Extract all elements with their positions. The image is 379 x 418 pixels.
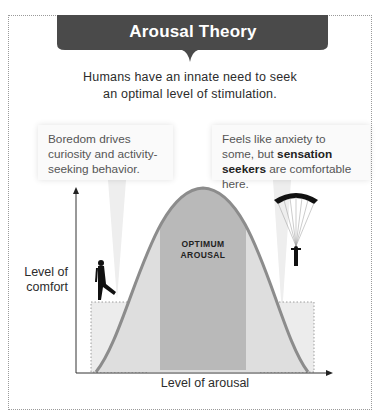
- y-label-line-1: Level of: [20, 265, 68, 280]
- walking-person-icon: [95, 260, 116, 300]
- arousal-chart: [0, 0, 379, 418]
- callout-sensation-seekers: Feels like anxiety to some, but sensatio…: [212, 125, 370, 180]
- optimum-line-2: AROUSAL: [160, 250, 246, 261]
- y-label-line-2: comfort: [20, 280, 68, 295]
- left-beam: [108, 180, 126, 300]
- y-axis-arrow-icon: [73, 187, 79, 194]
- optimum-line-1: OPTIMUM: [160, 239, 246, 250]
- x-axis-arrow-icon: [326, 370, 333, 376]
- x-axis-label: Level of arousal: [150, 376, 260, 390]
- y-axis-label: Level of comfort: [20, 265, 68, 295]
- optimum-arousal-label: OPTIMUM AROUSAL: [160, 239, 246, 261]
- callout-boredom: Boredom drives curiosity and activity-se…: [38, 125, 173, 180]
